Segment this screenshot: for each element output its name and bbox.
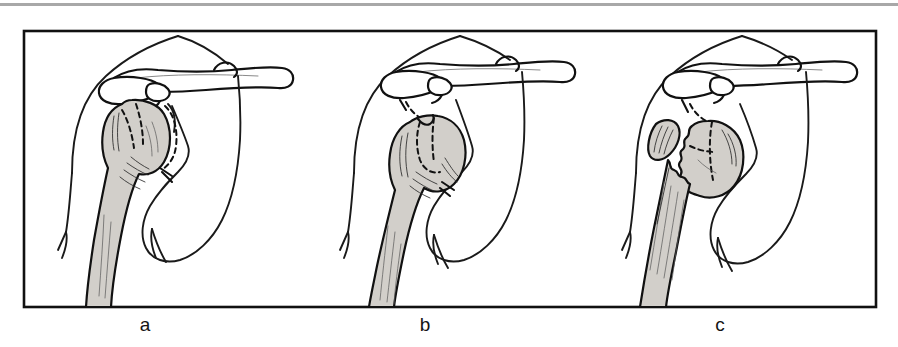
panel-label-c: c [715,314,725,335]
neck-contour-a [178,36,228,64]
humerus-a [86,100,170,307]
neck-contour-c [742,36,792,60]
page-rule [0,3,898,6]
neck-contour-b [460,36,510,60]
fracture-spike-c [682,100,688,112]
shoulder-fracture-figure: a [0,0,898,347]
fracture-notch-a [160,168,172,182]
panel-b: b [340,36,575,335]
lateral-arm-contour-c [630,173,636,232]
rib-c [718,238,732,271]
fracture-connector-c [690,104,708,122]
fracture-spike-b [400,100,406,110]
panel-label-a: a [140,314,151,335]
lateral-arm-contour-a [66,173,72,232]
coracoid-process-c [710,77,734,95]
lateral-arm-contour-b [348,173,354,232]
panel-c: c [622,36,857,335]
rib-b [434,235,448,268]
coracoid-tip-c [714,95,724,103]
humeral-shaft-c [640,160,690,307]
figure-container: a [0,0,898,347]
panel-a: a [58,36,293,335]
coracoid-tip-b [432,95,442,103]
panel-label-b: b [420,314,431,335]
coracoid-process-b [428,77,452,95]
coracoid-process-a [146,83,170,101]
